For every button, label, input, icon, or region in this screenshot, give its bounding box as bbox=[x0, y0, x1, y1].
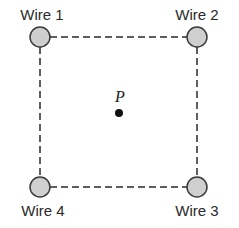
wire-4-circle bbox=[30, 177, 50, 197]
wire-2-circle bbox=[187, 27, 207, 47]
wire-3-circle bbox=[187, 177, 207, 197]
wire-1-label: Wire 1 bbox=[20, 6, 63, 23]
wire-4-label: Wire 4 bbox=[21, 202, 64, 219]
wire-square-diagram: Wire 1 Wire 2 Wire 3 Wire 4 P bbox=[0, 0, 239, 228]
wire-1-circle bbox=[30, 27, 50, 47]
wire-2-label: Wire 2 bbox=[175, 6, 218, 23]
wire-3-label: Wire 3 bbox=[175, 202, 218, 219]
point-p-dot bbox=[115, 109, 123, 117]
point-p-label: P bbox=[114, 88, 125, 105]
